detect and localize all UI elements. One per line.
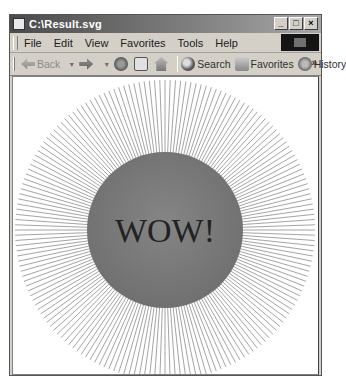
forward-button[interactable]	[79, 57, 95, 71]
wow-text: WOW!	[115, 212, 215, 249]
refresh-icon	[134, 57, 148, 71]
window-title: C:\Result.svg	[29, 18, 102, 30]
title-bar[interactable]: C:\Result.svg _ □ ×	[10, 15, 321, 33]
refresh-button[interactable]	[134, 57, 150, 71]
menubar-grip-handle[interactable]	[13, 36, 18, 50]
history-label: History	[314, 58, 346, 70]
home-icon	[154, 57, 168, 71]
menu-favorites[interactable]: Favorites	[120, 37, 173, 49]
home-button[interactable]	[154, 57, 170, 71]
menu-bar: File Edit View Favorites Tools Help	[10, 33, 321, 53]
maximize-button[interactable]: □	[289, 17, 303, 30]
windows-logo-throbber	[281, 34, 319, 51]
back-button[interactable]: Back	[21, 57, 60, 71]
svg-document-view: WOW!	[12, 76, 319, 375]
search-button[interactable]: Search	[181, 57, 230, 71]
menu-file[interactable]: File	[24, 37, 50, 49]
toolbar-separator	[177, 56, 178, 72]
stop-icon	[114, 57, 128, 71]
favorites-button[interactable]: Favorites	[235, 57, 294, 71]
menu-help[interactable]: Help	[215, 37, 246, 49]
forward-dropdown-icon[interactable]: ▼	[103, 61, 110, 68]
search-label: Search	[197, 58, 230, 70]
back-dropdown-icon[interactable]: ▼	[68, 61, 75, 68]
search-icon	[181, 57, 195, 71]
windows-logo-icon	[294, 38, 306, 47]
history-button[interactable]: History	[298, 57, 346, 71]
menu-tools[interactable]: Tools	[178, 37, 212, 49]
forward-arrow-icon	[79, 57, 93, 71]
window-controls: _ □ ×	[274, 17, 318, 30]
menu-edit[interactable]: Edit	[54, 37, 81, 49]
starburst-graphic: WOW!	[13, 77, 319, 375]
toolbar-overflow-chevron-icon[interactable]: »	[311, 57, 317, 68]
menu-view[interactable]: View	[85, 37, 117, 49]
history-icon	[298, 57, 312, 71]
standard-toolbar: Back ▼ ▼ Search Favorites History »	[10, 53, 321, 76]
stop-button[interactable]	[114, 57, 130, 71]
minimize-button[interactable]: _	[274, 17, 288, 30]
favorites-icon	[235, 57, 249, 71]
favorites-label: Favorites	[251, 58, 294, 70]
toolbar-grip-handle[interactable]	[13, 57, 15, 71]
back-arrow-icon	[21, 57, 35, 71]
close-button[interactable]: ×	[304, 17, 318, 30]
app-icon	[13, 18, 25, 30]
back-label: Back	[37, 58, 60, 70]
browser-window: C:\Result.svg _ □ × File Edit View Favor…	[9, 14, 322, 376]
